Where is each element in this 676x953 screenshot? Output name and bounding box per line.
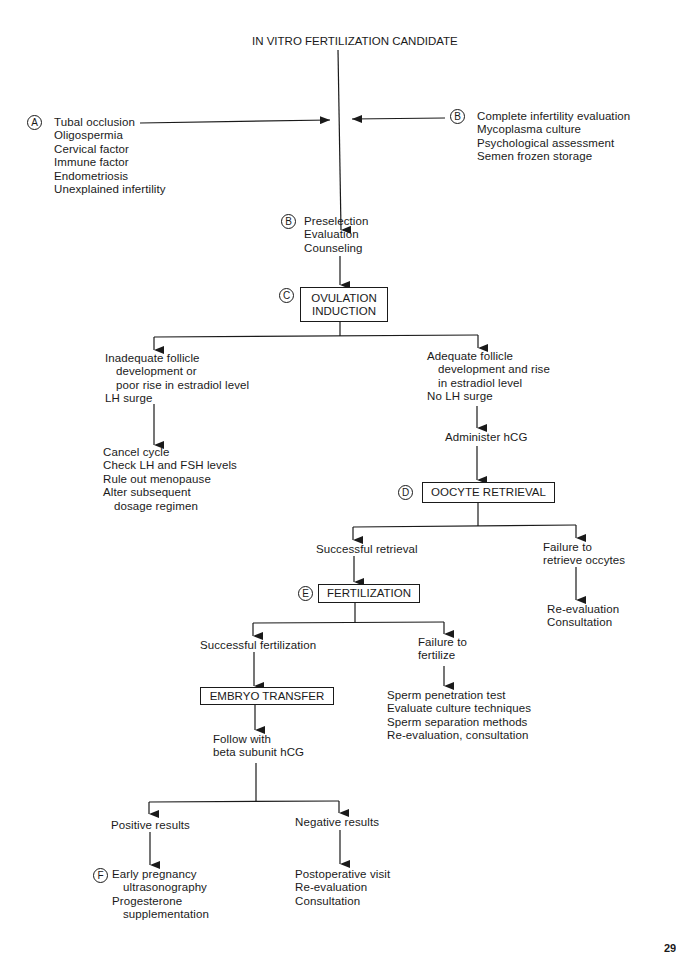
inadequate-response: Inadequate follicle development or poor … <box>105 352 249 406</box>
preselection-item: Evaluation <box>304 228 368 241</box>
adequate-response: Adequate follicle development and rise i… <box>427 350 550 404</box>
failure-fertilize: Failure to fertilize <box>418 636 467 663</box>
box-label: EMBRYO TRANSFER <box>210 690 325 703</box>
box-line: INDUCTION <box>312 305 376 318</box>
text-line: dosage regimen <box>103 500 237 513</box>
page-number: 29 <box>664 942 676 953</box>
marker-e-icon: E <box>298 586 313 601</box>
text-line: Failure to <box>418 636 467 649</box>
indication-item: Unexplained infertility <box>54 183 166 196</box>
ovulation-induction-box: OVULATION INDUCTION <box>300 287 388 322</box>
indication-item: Immune factor <box>54 156 166 169</box>
workup-item: Complete infertility evaluation <box>477 110 630 123</box>
embryo-transfer-box: EMBRYO TRANSFER <box>200 687 334 705</box>
negative-followup: Postoperative visit Re-evaluation Consul… <box>295 868 390 908</box>
text-line: No LH surge <box>427 390 550 403</box>
text-line: Re-evaluation, consultation <box>387 729 531 742</box>
text-line: Sperm separation methods <box>387 716 531 729</box>
text-line: in estradiol level <box>427 377 550 390</box>
marker-b-preselection-icon: B <box>281 214 296 229</box>
text-line: development and rise <box>427 363 550 376</box>
administer-hcg: Administer hCG <box>445 431 528 444</box>
preselection-item: Counseling <box>304 242 368 255</box>
successful-retrieval: Successful retrieval <box>316 543 418 556</box>
marker-c-icon: C <box>279 288 294 303</box>
text-line: Re-evaluation <box>295 881 390 894</box>
marker-b-icon: B <box>450 109 465 124</box>
text-line: Inadequate follicle <box>105 352 249 365</box>
negative-results: Negative results <box>295 816 379 829</box>
workup-item: Semen frozen storage <box>477 150 630 163</box>
marker-d-icon: D <box>398 485 413 500</box>
workup-list: Complete infertility evaluation Mycoplas… <box>477 110 630 164</box>
box-label: FERTILIZATION <box>327 587 411 600</box>
text-line: Adequate follicle <box>427 350 550 363</box>
marker-f-icon: F <box>93 868 108 883</box>
text-line: poor rise in estradiol level <box>105 379 249 392</box>
follow-with-hcg: Follow with beta subunit hCG <box>213 733 304 760</box>
box-line: OVULATION <box>311 292 377 305</box>
preselection-item: Preselection <box>304 215 368 228</box>
indication-item: Oligospermia <box>54 129 166 142</box>
positive-results: Positive results <box>111 819 190 832</box>
retrieval-followup: Re-evaluation Consultation <box>547 603 619 630</box>
text-line: LH surge <box>105 392 249 405</box>
text-line: Rule out menopause <box>103 473 237 486</box>
oocyte-retrieval-box: OOCYTE RETRIEVAL <box>422 482 555 503</box>
text-line: Alter subsequent <box>103 486 237 499</box>
text-line: Re-evaluation <box>547 603 619 616</box>
indication-item: Tubal occlusion <box>54 116 166 129</box>
positive-followup: Early pregnancy ultrasonography Progeste… <box>112 868 209 922</box>
preselection-list: Preselection Evaluation Counseling <box>304 215 368 255</box>
workup-item: Psychological assessment <box>477 137 630 150</box>
indications-list: Tubal occlusion Oligospermia Cervical fa… <box>54 116 166 196</box>
text-line: fertilize <box>418 649 467 662</box>
text-line: Postoperative visit <box>295 868 390 881</box>
successful-fertilization: Successful fertilization <box>200 639 316 652</box>
text-line: Sperm penetration test <box>387 689 531 702</box>
text-line: Consultation <box>547 616 619 629</box>
text-line: beta subunit hCG <box>213 746 304 759</box>
text-line: Failure to <box>543 541 625 554</box>
text-line: Follow with <box>213 733 304 746</box>
indication-item: Endometriosis <box>54 170 166 183</box>
workup-item: Mycoplasma culture <box>477 123 630 136</box>
text-line: development or <box>105 365 249 378</box>
text-line: Consultation <box>295 895 390 908</box>
text-line: Evaluate culture techniques <box>387 702 531 715</box>
fertilize-followup: Sperm penetration test Evaluate culture … <box>387 689 531 743</box>
text-line: Cancel cycle <box>103 446 237 459</box>
text-line: supplementation <box>112 908 209 921</box>
marker-a-icon: A <box>27 115 42 130</box>
diagram-title: IN VITRO FERTILIZATION CANDIDATE <box>252 35 458 47</box>
failure-retrieval: Failure to retrieve occytes <box>543 541 625 568</box>
text-line: Check LH and FSH levels <box>103 459 237 472</box>
text-line: retrieve occytes <box>543 554 625 567</box>
box-label: OOCYTE RETRIEVAL <box>431 486 546 499</box>
indication-item: Cervical factor <box>54 143 166 156</box>
fertilization-box: FERTILIZATION <box>318 584 420 603</box>
text-line: Early pregnancy <box>112 868 209 881</box>
text-line: ultrasonography <box>112 881 209 894</box>
cancel-actions: Cancel cycle Check LH and FSH levels Rul… <box>103 446 237 513</box>
text-line: Progesterone <box>112 895 209 908</box>
